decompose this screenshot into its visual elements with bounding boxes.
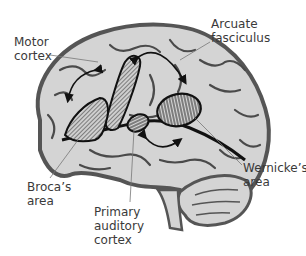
cerebrum — [38, 25, 269, 198]
label-primary-auditory-cortex: Primary auditory cortex — [94, 205, 144, 247]
brain-stem — [158, 190, 182, 230]
label-wernickes-area: Wernicke’s area — [243, 161, 306, 189]
label-arcuate-fasciculus: Arcuate fasciculus — [211, 17, 270, 45]
label-brocas-area: Broca’s area — [27, 180, 71, 208]
label-motor-cortex: Motor cortex — [14, 35, 52, 63]
